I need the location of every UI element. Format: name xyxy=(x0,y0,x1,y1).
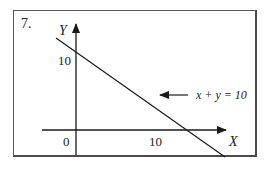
y-axis-label: Y xyxy=(59,23,69,38)
problem-number: 7. xyxy=(21,16,32,31)
x-axis-label: X xyxy=(228,134,238,149)
equation-label: x + y = 10 xyxy=(195,88,247,102)
y-intercept-label: 10 xyxy=(58,53,71,68)
x-intercept-label: 10 xyxy=(149,134,162,149)
origin-label: 0 xyxy=(63,134,70,149)
graph-canvas: 7. Y 10 0 10 X x + y = 10 xyxy=(0,0,269,171)
